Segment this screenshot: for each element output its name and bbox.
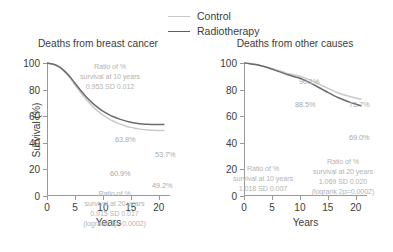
point-label-control-20yr: 73.7% [349,100,369,109]
annotation-line: 1.069 SD 0.020 [293,177,393,187]
point-label-control-10yr: 60.9% [110,169,130,178]
annotation-line: Ratio of % [293,157,393,167]
y-axis-tick [240,143,244,144]
annotation-line: (logrank 2p=0.0002) [62,219,167,229]
panel-title-other-causes: Deaths from other causes [197,38,393,49]
y-axis-tick [43,116,47,117]
y-axis-tick-label: 100 [23,58,40,69]
x-axis-tick-label: 0 [241,202,247,213]
annotation-line: Ratio of % [64,62,156,72]
x-axis-tick [47,196,48,200]
annotation-line: 0.915 SD 0.017 [62,209,167,219]
x-axis-title-other-causes: Years [293,217,319,228]
y-axis-tick-label: 80 [29,84,40,95]
y-axis-tick-label: 60 [226,111,237,122]
legend-label-control: Control [197,11,231,22]
annotation-line: (logrank 2p=0.0002) [293,187,393,197]
point-label-rt-20yr: 69.0% [349,133,369,142]
legend-line-radiotherapy-icon [168,31,190,32]
y-axis-tick-label: 20 [29,164,40,175]
chart-panel-other-causes: Deaths from other causes Years 020406080… [197,38,393,252]
y-axis-tick-label: 60 [29,111,40,122]
y-axis-tick [240,63,244,64]
annotation-line: survival at 20 years [62,199,167,209]
y-axis-tick [43,63,47,64]
y-axis-tick-label: 40 [226,137,237,148]
x-axis-tick [272,196,273,200]
y-axis-tick [43,143,47,144]
annotation-line: survival at 10 years [64,72,156,82]
legend-item-radiotherapy: Radiotherapy [168,24,298,39]
annotation-ratio-10yr-breast: Ratio of % survival at 10 years 0.953 SD… [64,62,156,92]
legend-line-control-icon [168,16,190,17]
annotation-ratio-20yr-other: Ratio of % survival at 20 years 1.069 SD… [293,157,393,197]
point-label-rt-10yr: 63.8% [115,135,135,144]
x-axis-tick-label: 20 [350,202,361,213]
y-axis-tick [43,90,47,91]
y-axis-tick-label: 0 [34,191,40,202]
y-axis-tick-label: 100 [220,58,237,69]
annotation-line: survival at 20 years [293,167,393,177]
annotation-ratio-20yr-breast: Ratio of % survival at 20 years 0.915 SD… [62,189,167,229]
point-label-control-10yr: 90.1% [299,77,319,86]
legend-label-radiotherapy: Radiotherapy [197,26,259,37]
annotation-line: Ratio of % [62,189,167,199]
x-axis-tick-label: 5 [269,202,275,213]
point-label-rt-20yr: 53.7% [155,150,175,159]
y-axis-tick [240,116,244,117]
chart-panel-breast-cancer: Deaths from breast cancer Survival (%) Y… [0,38,196,252]
x-axis-tick-label: 10 [294,202,305,213]
y-axis-tick [240,90,244,91]
point-label-rt-10yr: 88.5% [295,100,315,109]
panel-title-breast-cancer: Deaths from breast cancer [0,38,196,49]
y-axis-tick-label: 40 [29,137,40,148]
x-axis-tick [244,196,245,200]
x-axis-tick-label: 0 [44,202,50,213]
y-axis-tick-label: 80 [226,84,237,95]
x-axis-tick-label: 15 [322,202,333,213]
chart-legend: Control Radiotherapy [168,9,298,39]
annotation-line: 0.953 SD 0.012 [64,82,156,92]
y-axis-tick [43,169,47,170]
legend-item-control: Control [168,9,298,24]
